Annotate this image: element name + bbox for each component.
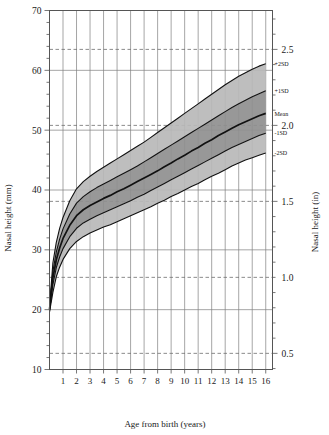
y-tick-label-in: 0.5 [282, 349, 294, 359]
x-tick-label: 9 [169, 376, 174, 386]
y-tick-label-mm: 20 [32, 305, 42, 315]
x-tick-label: 16 [261, 376, 271, 386]
y-tick-label-in: 2.5 [282, 45, 294, 55]
y-tick-label-mm: 40 [32, 185, 42, 195]
x-tick-label: 2 [74, 376, 79, 386]
x-tick-label: 8 [155, 376, 160, 386]
x-tick-label: 5 [115, 376, 120, 386]
nasal-height-growth-chart: 10203040506070 0.51.01.52.02.5 123456789… [0, 0, 329, 435]
y-tick-label-mm: 60 [32, 66, 42, 76]
y-tick-label-mm: 50 [32, 126, 42, 136]
x-tick-label: 3 [88, 376, 93, 386]
y-axis-title-in: Nasal height (in) [310, 192, 320, 252]
x-tick-label: 11 [194, 376, 203, 386]
x-tick-label: 6 [128, 376, 133, 386]
x-tick-label: 12 [207, 376, 216, 386]
sd-label-mean: Mean [275, 111, 289, 117]
x-tick-label: 1 [61, 376, 66, 386]
sd-label-minus1sd: -1SD [275, 130, 288, 136]
x-tick-label: 13 [221, 376, 231, 386]
y-tick-label-mm: 30 [32, 245, 42, 255]
x-tick-label: 10 [180, 376, 190, 386]
y-tick-label-in: 1.5 [282, 197, 294, 207]
y-tick-label-in: 2.0 [282, 121, 294, 131]
x-tick-label: 15 [248, 376, 258, 386]
x-tick-label: 7 [142, 376, 147, 386]
sd-label-minus2sd: -2SD [275, 150, 288, 156]
sd-label-plus1sd: +1SD [275, 88, 290, 94]
y-axis-title-mm: Nasal height (mm) [3, 184, 13, 251]
y-tick-label-mm: 10 [32, 365, 42, 375]
y-tick-label-in: 1.0 [282, 273, 294, 283]
x-tick-label: 14 [234, 376, 244, 386]
x-axis-title: Age from birth (years) [124, 419, 205, 429]
y-tick-label-mm: 70 [32, 6, 42, 16]
chart-svg: 10203040506070 0.51.01.52.02.5 123456789… [0, 0, 329, 435]
x-tick-label: 4 [101, 376, 106, 386]
sd-label-plus2sd: +2SD [275, 61, 290, 67]
